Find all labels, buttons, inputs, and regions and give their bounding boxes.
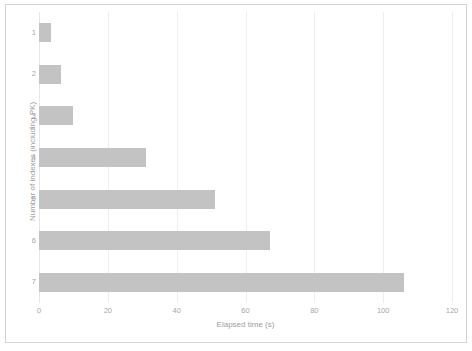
gridline-x-60 bbox=[246, 12, 247, 303]
bar-7 bbox=[39, 273, 404, 292]
x-tick-label-100: 100 bbox=[363, 307, 403, 315]
gridline-x-120 bbox=[452, 12, 453, 303]
bar-2 bbox=[39, 65, 61, 84]
x-tick-label-80: 80 bbox=[294, 307, 334, 315]
gridline-x-100 bbox=[383, 12, 384, 303]
x-axis-tick-labels: 020406080100120 bbox=[39, 305, 452, 321]
chart-figure: 1234567 020406080100120 Elapsed time (s)… bbox=[0, 0, 472, 351]
y-axis-title-wrapper: Number of indexes (including PK) bbox=[14, 12, 26, 303]
x-tick-label-20: 20 bbox=[88, 307, 128, 315]
x-tick-label-60: 60 bbox=[226, 307, 266, 315]
bar-1 bbox=[39, 23, 51, 42]
bar-5 bbox=[39, 190, 215, 209]
plot-area bbox=[39, 12, 452, 303]
gridline-x-40 bbox=[177, 12, 178, 303]
bar-3 bbox=[39, 106, 73, 125]
x-axis-title: Elapsed time (s) bbox=[39, 320, 452, 329]
bar-4 bbox=[39, 148, 146, 167]
x-tick-label-0: 0 bbox=[19, 307, 59, 315]
y-axis-title: Number of indexes (including PK) bbox=[28, 82, 37, 242]
bar-6 bbox=[39, 231, 270, 250]
x-tick-label-120: 120 bbox=[432, 307, 472, 315]
gridline-x-80 bbox=[314, 12, 315, 303]
x-tick-label-40: 40 bbox=[157, 307, 197, 315]
